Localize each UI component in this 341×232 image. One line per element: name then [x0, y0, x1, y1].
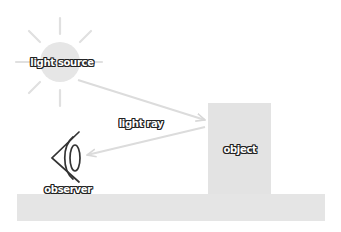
diagram-canvas — [0, 0, 341, 232]
light-ray-label: light ray — [119, 118, 164, 129]
reflected-ray — [87, 127, 205, 155]
observer-label: observer — [44, 184, 92, 195]
incident-ray — [78, 80, 205, 120]
ground — [17, 194, 325, 221]
object-label: object — [223, 144, 256, 155]
eye-icon — [52, 132, 80, 182]
light-source-label: light source — [30, 57, 93, 68]
